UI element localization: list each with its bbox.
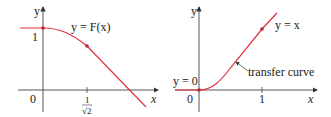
right-curve-label: y = x bbox=[275, 18, 300, 32]
right-x-axis-label: x bbox=[307, 92, 314, 106]
right-point-one bbox=[260, 27, 264, 31]
left-point-inflection bbox=[85, 44, 89, 48]
left-curve-label: y = F(x) bbox=[71, 20, 110, 34]
right-y-axis-label: y bbox=[191, 4, 197, 18]
left-x-tick-numerator: 1 bbox=[85, 95, 90, 105]
left-origin-label: 0 bbox=[30, 92, 36, 106]
left-x-axis-label: x bbox=[150, 92, 157, 106]
left-point-y-intercept bbox=[41, 26, 45, 30]
diagram-canvas: y x 0 1 y = F(x) 1 √2 y x 0 y = 0 1 y = … bbox=[0, 0, 331, 117]
transfer-curve-annotation: transfer curve bbox=[248, 65, 314, 79]
right-point-origin bbox=[197, 88, 201, 92]
left-y-axis-label: y bbox=[34, 4, 40, 18]
annotation-arrow bbox=[236, 62, 248, 71]
right-x-tick-label: 1 bbox=[259, 92, 265, 106]
left-x-tick-denominator: √2 bbox=[82, 106, 91, 116]
right-graph: y x 0 y = 0 1 y = x transfer curve bbox=[173, 4, 317, 112]
right-y0-label: y = 0 bbox=[173, 74, 198, 88]
left-graph: y x 0 1 y = F(x) 1 √2 bbox=[18, 4, 158, 116]
left-curve bbox=[20, 28, 146, 107]
left-y-tick-label: 1 bbox=[32, 30, 38, 44]
right-origin-label: 0 bbox=[187, 92, 193, 106]
